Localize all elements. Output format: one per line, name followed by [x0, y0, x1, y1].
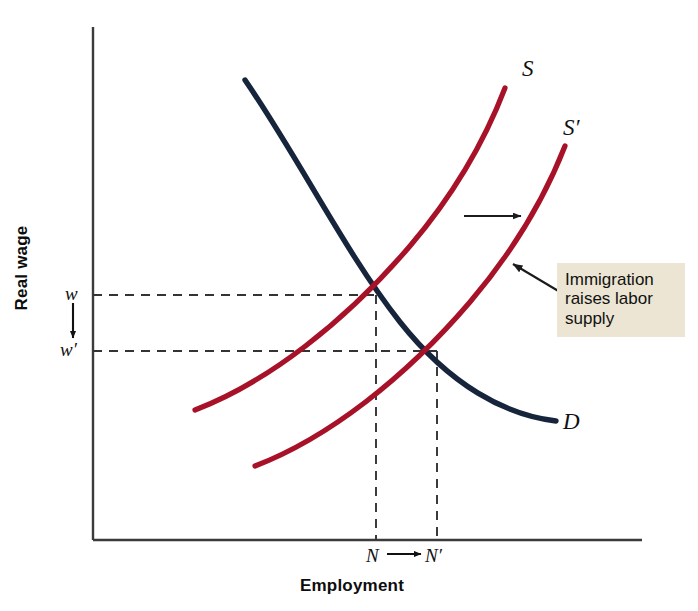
- labor-market-immigration-figure: Real wage Employment S S′ D w w′ N N′ Im…: [0, 0, 698, 611]
- wage-tick-label: w: [65, 283, 78, 305]
- callout-leader-line: [513, 264, 560, 292]
- guide-lines: [93, 295, 437, 540]
- immigration-callout-box: Immigration raises labor supply: [557, 263, 685, 337]
- supply-curve-label: S: [522, 56, 534, 82]
- wage-shifted-tick-label: w′: [60, 339, 77, 361]
- x-axis-title: Employment: [300, 576, 404, 596]
- employment-shifted-tick-label: N′: [425, 545, 442, 567]
- employment-tick-label: N: [366, 545, 379, 567]
- supply-shifted-curve-label: S′: [563, 115, 580, 141]
- y-axis-title: Real wage: [12, 208, 32, 328]
- supply-curve-shifted: [255, 146, 565, 466]
- demand-curve-label: D: [563, 409, 580, 435]
- immigration-callout-text: Immigration raises labor supply: [565, 270, 679, 328]
